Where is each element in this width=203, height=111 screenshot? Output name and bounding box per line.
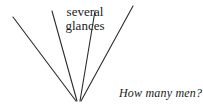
caption-how-many-men: How many men? [119, 86, 202, 101]
diagram-canvas: several glances How many men? [0, 0, 203, 111]
annotation-several-glances: several glances [54, 5, 116, 33]
annotation-line-2: glances [54, 19, 116, 33]
annotation-line-1: several [54, 5, 116, 19]
